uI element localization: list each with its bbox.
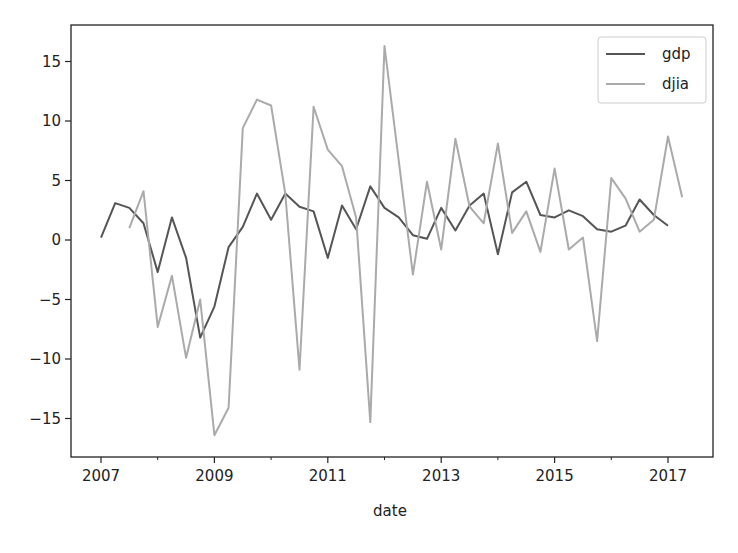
x-tick-label: 2017 — [649, 467, 687, 485]
y-tick-label: 5 — [51, 172, 61, 190]
x-tick-label: 2013 — [422, 467, 460, 485]
y-tick-label: 15 — [42, 53, 61, 71]
x-axis-label: date — [373, 502, 407, 520]
x-tick-label: 2015 — [536, 467, 574, 485]
legend: gdp djia — [598, 37, 706, 103]
y-tick-label: 10 — [42, 112, 61, 130]
y-tick-label: −5 — [39, 291, 61, 309]
x-tick-label: 2011 — [309, 467, 347, 485]
y-tick-label: 0 — [51, 231, 61, 249]
y-tick-label: −15 — [29, 410, 61, 428]
legend-gdp-label: gdp — [662, 45, 691, 63]
legend-djia-label: djia — [662, 75, 689, 93]
x-tick-label: 2007 — [82, 467, 120, 485]
line-chart: 151050−5−10−15 200720092011201320152017 … — [0, 0, 738, 553]
x-tick-label: 2009 — [195, 467, 233, 485]
y-tick-label: −10 — [29, 350, 61, 368]
